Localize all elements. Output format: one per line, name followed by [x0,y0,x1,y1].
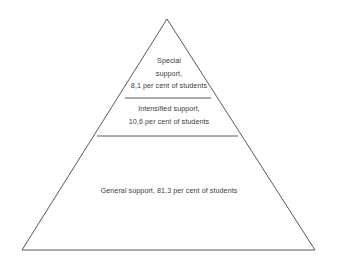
pyramid-outline [22,19,315,250]
tier-intensified-line-1: Intensified support, [0,103,338,116]
tier-label-general: General support, 81,3 per cent of studen… [0,185,338,198]
tier-special-line-2: support, [0,68,338,81]
tier-label-intensified: Intensified support, 10,6 per cent of st… [0,103,338,128]
support-pyramid-figure: Special support, 8,1 per cent of student… [0,0,338,271]
tier-general-line-1: General support, 81,3 per cent of studen… [0,185,338,198]
tier-special-line-1: Special [0,55,338,68]
tier-special-line-3: 8,1 per cent of students [0,80,338,93]
tier-label-special: Special support, 8,1 per cent of student… [0,55,338,93]
pyramid-diagram [0,0,338,271]
tier-intensified-line-2: 10,6 per cent of students [0,116,338,129]
